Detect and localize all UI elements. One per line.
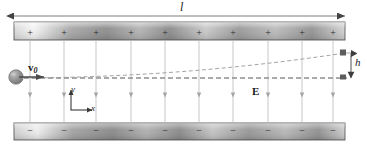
reference-endpoint-marker bbox=[340, 75, 346, 80]
plate-sign-negative-4: − bbox=[128, 125, 134, 136]
plate-sign-negative-5: − bbox=[162, 125, 168, 136]
field-line-arrow-3 bbox=[94, 93, 98, 98]
field-line-arrow-10 bbox=[331, 93, 335, 98]
plate-sign-negative-10: − bbox=[330, 125, 336, 136]
diagram-canvas: ++++++++++ −−−−−−−−−− bbox=[0, 0, 367, 147]
plate-sign-negative-1: − bbox=[27, 125, 33, 136]
trajectory-endpoint-marker bbox=[340, 50, 346, 56]
field-line-arrow-6 bbox=[197, 93, 201, 98]
plate-sign-positive-4: + bbox=[128, 27, 134, 38]
plate-sign-positive-6: + bbox=[196, 27, 202, 38]
plate-sign-negative-7: − bbox=[230, 125, 236, 136]
electric-field-label: E bbox=[252, 86, 259, 97]
plate-sign-positive-3: + bbox=[93, 27, 99, 38]
x-axis-label: x bbox=[91, 104, 95, 113]
plate-sign-positive-8: + bbox=[265, 27, 271, 38]
field-line-arrow-8 bbox=[266, 93, 270, 98]
plate-sign-negative-6: − bbox=[196, 125, 202, 136]
plate-sign-positive-5: + bbox=[162, 27, 168, 38]
plate-sign-positive-9: + bbox=[299, 27, 305, 38]
plate-sign-negative-9: − bbox=[299, 125, 305, 136]
length-label: l bbox=[180, 1, 183, 13]
plate-sign-negative-8: − bbox=[265, 125, 271, 136]
plate-sign-negative-3: − bbox=[93, 125, 99, 136]
deflection-arrow-down-head bbox=[348, 72, 355, 79]
field-line-arrow-1 bbox=[28, 93, 32, 98]
field-line-arrow-4 bbox=[129, 93, 133, 98]
field-line-arrow-7 bbox=[231, 93, 235, 98]
deflection-dimension bbox=[340, 50, 356, 80]
particle-trajectory bbox=[24, 53, 345, 78]
initial-velocity-label: v0 bbox=[28, 62, 38, 73]
field-line-arrow-5 bbox=[163, 93, 167, 98]
plate-sign-positive-10: + bbox=[330, 27, 336, 38]
velocity-subscript: 0 bbox=[34, 66, 38, 75]
y-axis-label: y bbox=[71, 85, 75, 94]
velocity-symbol: v bbox=[28, 61, 34, 73]
capacitor-deflection-diagram: ++++++++++ −−−−−−−−−− bbox=[0, 0, 367, 147]
plate-sign-positive-7: + bbox=[230, 27, 236, 38]
trajectory-curve bbox=[24, 53, 345, 78]
particle-highlight bbox=[11, 73, 16, 76]
plate-sign-positive-1: + bbox=[27, 27, 33, 38]
plate-sign-positive-2: + bbox=[61, 27, 67, 38]
deflection-label: h bbox=[355, 57, 361, 68]
field-line-arrow-2 bbox=[62, 93, 66, 98]
plate-sign-negative-2: − bbox=[61, 125, 67, 136]
field-line-arrow-9 bbox=[300, 93, 304, 98]
